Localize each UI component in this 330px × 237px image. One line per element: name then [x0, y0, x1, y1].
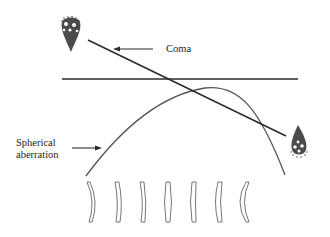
coma-spot-bottom-right-icon	[290, 125, 307, 158]
spherical-arrow-head	[95, 146, 102, 151]
lens-4	[165, 182, 172, 222]
spherical-aberration-label-line1: Spherical	[16, 137, 56, 148]
coma-ray-line	[88, 40, 286, 136]
lens-1	[87, 182, 95, 222]
aberration-diagram	[0, 0, 330, 237]
coma-label: Coma	[166, 43, 191, 54]
lens-6	[216, 182, 223, 222]
coma-spot-top-left-icon	[61, 16, 80, 52]
spherical-aberration-curve	[86, 88, 285, 176]
coma-arrow-head	[113, 47, 120, 52]
lens-array	[87, 182, 249, 222]
spherical-aberration-label-line2: aberration	[16, 149, 59, 160]
lens-7	[240, 182, 249, 222]
lens-3	[140, 182, 146, 222]
lens-5	[191, 182, 197, 222]
lens-2	[115, 182, 121, 222]
